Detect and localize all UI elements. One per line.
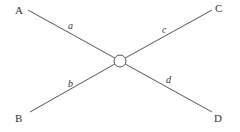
edge-label-c: c (162, 24, 167, 35)
center-junction (114, 55, 126, 67)
edge-c-line (125, 10, 212, 58)
node-label-b: B (15, 112, 22, 124)
edge-d-line (125, 64, 212, 112)
edge-label-b: b (68, 78, 73, 89)
crossing-diagram: A B C D a b c d (0, 0, 240, 132)
edge-a-line (28, 10, 115, 58)
node-label-a: A (15, 4, 23, 16)
edge-label-a: a (68, 20, 73, 31)
edge-label-d: d (166, 74, 172, 85)
node-label-d: D (214, 112, 222, 124)
node-label-c: C (215, 2, 222, 14)
